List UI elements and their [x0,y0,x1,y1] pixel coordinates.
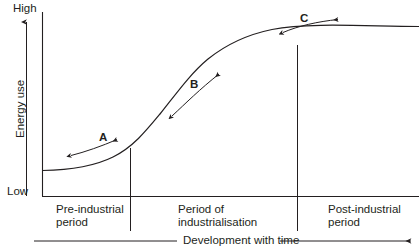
y-axis-title: Energy use [14,80,27,138]
annotation-arrow-a [71,140,117,156]
x-axis-title: Development with time [183,234,299,247]
y-axis-low-label: Low [7,185,28,198]
phase-ind-line2: industrialisation [178,216,257,229]
curve-marker-c: C [300,12,308,25]
curve-marker-b: B [190,78,198,91]
curve-marker-a: A [99,131,107,144]
phase-post-line2: period [328,216,360,229]
energy-use-curve [43,25,419,170]
phase-ind-line1: Period of [178,203,224,216]
phase-pre-line1: Pre-industrial [56,203,124,216]
plot-axes [42,12,419,197]
phase-post-line1: Post-industrial [328,203,401,216]
y-axis-high-label: High [13,2,37,15]
phase-pre-line2: period [56,216,88,229]
energy-use-development-s-curve-figure: High Low Energy use Development with tim… [0,0,419,251]
